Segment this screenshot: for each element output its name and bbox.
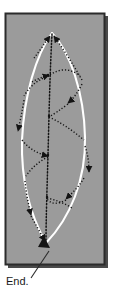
leaf-venation-figure: End. bbox=[0, 0, 118, 291]
vein-junction bbox=[46, 196, 48, 198]
figure-canvas: End. bbox=[0, 0, 118, 291]
diagram-panel bbox=[6, 14, 105, 265]
end-label: End. bbox=[6, 275, 29, 287]
vein-junction bbox=[47, 74, 49, 76]
vein-junction bbox=[47, 154, 49, 156]
vein-junction bbox=[48, 115, 50, 117]
